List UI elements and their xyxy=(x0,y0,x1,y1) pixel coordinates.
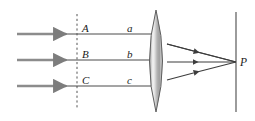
label-point-B: B xyxy=(82,48,89,60)
refracted-ray-a-arrow xyxy=(167,44,236,62)
ray-diagram-canvas: A B C a b c P xyxy=(0,0,255,121)
label-focus-point-P: P xyxy=(239,56,247,68)
label-point-C: C xyxy=(82,74,90,86)
label-ray-c: c xyxy=(127,74,132,86)
refracted-ray-c-arrow xyxy=(167,62,236,80)
mid-ray-group xyxy=(66,34,151,86)
label-ray-b: b xyxy=(127,48,133,60)
optics-ray-diagram-figure: A B C a b c P xyxy=(0,0,255,121)
incident-ray-group xyxy=(17,34,66,86)
label-ray-a: a xyxy=(127,22,133,34)
refracted-ray-group xyxy=(167,44,236,80)
label-point-A: A xyxy=(81,22,89,34)
converging-lens xyxy=(150,10,163,112)
